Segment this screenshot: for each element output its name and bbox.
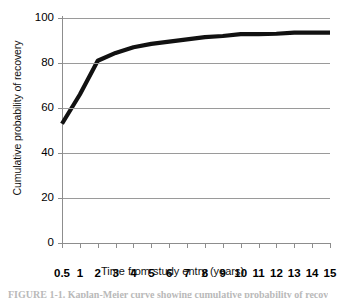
x-tick-mark-1 — [80, 243, 81, 248]
gridline-y-100 — [62, 18, 330, 19]
x-tick-mark-14 — [312, 243, 313, 248]
gridline-y-0 — [62, 243, 330, 244]
x-tick-mark-6 — [169, 243, 170, 248]
gridline-y-40 — [62, 153, 330, 154]
x-tick-mark-7 — [187, 243, 188, 248]
plot-area: 0204060801000.5123456789101112131415 — [62, 18, 330, 243]
y-tick-mark-20 — [58, 198, 63, 199]
y-tick-label-100: 100 — [20, 12, 54, 23]
x-tick-mark-10 — [241, 243, 242, 248]
x-tick-mark-8 — [205, 243, 206, 248]
figure-caption: FIGURE 1-1. Kaplan-Meier curve showing c… — [8, 291, 328, 298]
gridline-y-60 — [62, 108, 330, 109]
gridline-y-80 — [62, 63, 330, 64]
y-tick-label-20: 20 — [20, 192, 54, 203]
x-tick-mark-11 — [259, 243, 260, 248]
x-tick-mark-13 — [294, 243, 295, 248]
x-tick-mark-9 — [223, 243, 224, 248]
x-tick-mark-3 — [116, 243, 117, 248]
y-tick-label-0: 0 — [20, 237, 54, 248]
y-tick-label-60: 60 — [20, 102, 54, 113]
figure-container: Cumulative probability of recovery 02040… — [0, 0, 345, 303]
x-tick-mark-0.5 — [62, 243, 63, 248]
y-tick-mark-100 — [58, 18, 63, 19]
y-tick-mark-60 — [58, 108, 63, 109]
x-tick-mark-2 — [98, 243, 99, 248]
series-line-recovery — [62, 33, 330, 124]
x-tick-mark-4 — [133, 243, 134, 248]
x-tick-mark-15 — [330, 243, 331, 248]
y-tick-label-40: 40 — [20, 147, 54, 158]
x-tick-mark-12 — [276, 243, 277, 248]
gridline-y-20 — [62, 198, 330, 199]
x-axis-label: Time from study entry (years) — [0, 265, 345, 277]
y-tick-mark-40 — [58, 153, 63, 154]
x-tick-mark-5 — [151, 243, 152, 248]
recovery-curve — [62, 18, 330, 243]
y-tick-label-80: 80 — [20, 57, 54, 68]
y-tick-mark-80 — [58, 63, 63, 64]
figure-caption-text: FIGURE 1-1. Kaplan-Meier curve showing c… — [8, 291, 328, 298]
